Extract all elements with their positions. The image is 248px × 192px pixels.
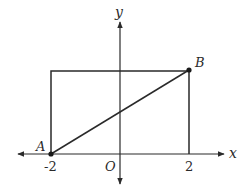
origin-label: O	[105, 159, 116, 174]
point-b-label: B	[194, 55, 205, 70]
coordinate-diagram: y x O -2 2 A B	[0, 0, 248, 192]
x-tick-neg2: -2	[44, 159, 57, 174]
x-tick-2: 2	[185, 159, 193, 174]
point-a-label: A	[35, 139, 45, 154]
y-axis-label: y	[114, 4, 124, 20]
point-a	[48, 151, 53, 156]
point-b	[186, 67, 191, 72]
x-axis-label: x	[229, 145, 237, 161]
